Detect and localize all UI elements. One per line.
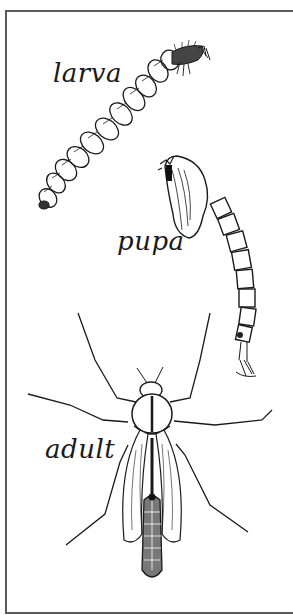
life-cycle-illustration <box>0 0 293 615</box>
pupa-label: pupa <box>117 228 185 254</box>
adult-label: adult <box>45 436 115 462</box>
larva-label: larva <box>53 60 122 86</box>
pupa-drawing <box>158 156 256 377</box>
